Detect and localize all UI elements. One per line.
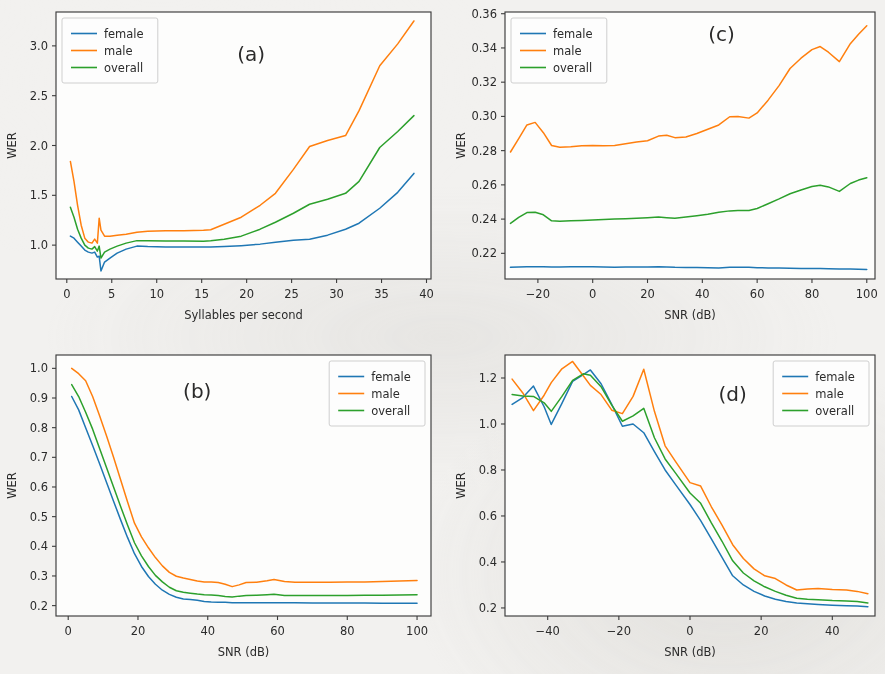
panel-label: (d) [719, 382, 747, 406]
y-tick-label: 0.5 [30, 510, 48, 524]
legend-label-male: male [371, 387, 400, 401]
legend-label-female: female [371, 370, 411, 384]
x-tick-label: 0 [589, 287, 596, 301]
x-tick-label: 25 [284, 287, 299, 301]
chart-panel-c: 0.220.240.260.280.300.320.340.36−2002040… [443, 0, 885, 337]
y-tick-label: 1.5 [30, 188, 48, 202]
legend-label-overall: overall [553, 61, 592, 75]
y-axis-label: WER [454, 472, 468, 499]
y-tick-label: 0.8 [30, 421, 48, 435]
x-tick-label: −20 [607, 624, 631, 638]
y-tick-label: 1.0 [30, 238, 48, 252]
x-tick-label: −40 [536, 624, 560, 638]
x-tick-label: 5 [108, 287, 115, 301]
panel-label: (c) [708, 22, 735, 46]
x-tick-label: 40 [200, 624, 215, 638]
x-axis-label: SNR (dB) [664, 645, 716, 659]
x-tick-label: 0 [686, 624, 693, 638]
x-tick-label: 15 [194, 287, 209, 301]
x-tick-label: 40 [825, 624, 840, 638]
chart-panel-b: 0.20.30.40.50.60.70.80.91.0020406080100S… [0, 337, 443, 674]
legend-label-male: male [815, 387, 844, 401]
panel-a-svg: 1.01.52.02.53.00510152025303540Syllables… [0, 0, 443, 337]
x-tick-label: 100 [406, 624, 428, 638]
y-tick-label: 0.6 [30, 480, 48, 494]
y-tick-label: 2.5 [30, 89, 48, 103]
y-tick-label: 0.2 [479, 601, 497, 615]
y-axis-label: WER [5, 132, 19, 159]
x-tick-label: 80 [805, 287, 820, 301]
legend-label-male: male [553, 44, 582, 58]
panel-c-svg: 0.220.240.260.280.300.320.340.36−2002040… [443, 0, 885, 337]
x-axis-label: SNR (dB) [218, 645, 270, 659]
y-tick-label: 1.2 [479, 371, 497, 385]
y-tick-label: 0.32 [471, 75, 497, 89]
y-tick-label: 0.4 [479, 555, 497, 569]
x-tick-label: 60 [750, 287, 765, 301]
legend-label-male: male [104, 44, 133, 58]
x-tick-label: 35 [374, 287, 389, 301]
legend-label-overall: overall [371, 404, 410, 418]
x-tick-label: 10 [149, 287, 164, 301]
y-tick-label: 0.3 [30, 569, 48, 583]
y-tick-label: 1.0 [479, 417, 497, 431]
y-tick-label: 0.36 [471, 7, 497, 21]
x-tick-label: 0 [65, 624, 72, 638]
y-tick-label: 0.6 [479, 509, 497, 523]
figure-canvas: 1.01.52.02.53.00510152025303540Syllables… [0, 0, 885, 674]
panel-b-svg: 0.20.30.40.50.60.70.80.91.0020406080100S… [0, 337, 443, 674]
x-tick-label: 40 [419, 287, 434, 301]
y-tick-label: 0.7 [30, 450, 48, 464]
y-tick-label: 0.22 [471, 246, 497, 260]
panel-label: (a) [237, 42, 265, 66]
y-tick-label: 0.34 [471, 41, 497, 55]
x-tick-label: 0 [63, 287, 70, 301]
chart-panel-a: 1.01.52.02.53.00510152025303540Syllables… [0, 0, 443, 337]
legend-label-overall: overall [104, 61, 143, 75]
y-axis-label: WER [5, 472, 19, 499]
x-tick-label: 20 [131, 624, 146, 638]
y-tick-label: 0.30 [471, 109, 497, 123]
y-tick-label: 1.0 [30, 361, 48, 375]
y-tick-label: 0.28 [471, 144, 497, 158]
x-tick-label: 20 [239, 287, 254, 301]
legend-label-female: female [553, 27, 593, 41]
x-tick-label: 30 [329, 287, 344, 301]
x-tick-label: 20 [754, 624, 769, 638]
y-tick-label: 0.4 [30, 539, 48, 553]
y-tick-label: 2.0 [30, 139, 48, 153]
panel-label: (b) [183, 379, 211, 403]
y-axis-label: WER [454, 132, 468, 159]
y-tick-label: 0.9 [30, 391, 48, 405]
x-tick-label: −20 [526, 287, 550, 301]
x-tick-label: 40 [695, 287, 710, 301]
y-tick-label: 0.26 [471, 178, 497, 192]
x-axis-label: Syllables per second [184, 308, 303, 322]
legend-label-overall: overall [815, 404, 854, 418]
y-tick-label: 3.0 [30, 39, 48, 53]
panel-d-svg: 0.20.40.60.81.01.2−40−2002040SNR (dB)WER… [443, 337, 885, 674]
y-tick-label: 0.8 [479, 463, 497, 477]
y-tick-label: 0.2 [30, 599, 48, 613]
x-axis-label: SNR (dB) [664, 308, 716, 322]
legend-label-female: female [104, 27, 144, 41]
legend-label-female: female [815, 370, 855, 384]
x-tick-label: 60 [270, 624, 285, 638]
x-tick-label: 20 [640, 287, 655, 301]
x-tick-label: 80 [340, 624, 355, 638]
x-tick-label: 100 [856, 287, 878, 301]
y-tick-label: 0.24 [471, 212, 497, 226]
chart-panel-d: 0.20.40.60.81.01.2−40−2002040SNR (dB)WER… [443, 337, 885, 674]
